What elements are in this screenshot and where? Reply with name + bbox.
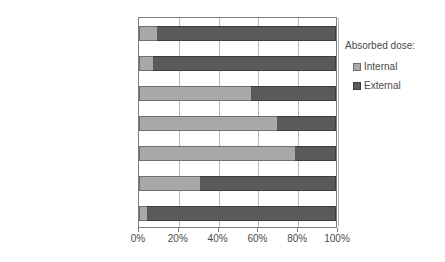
plot-area [138, 17, 337, 228]
bar-segment-external [157, 26, 336, 41]
legend-items: InternalExternal [345, 61, 443, 92]
bar-row [139, 86, 336, 101]
bar-segment-external [251, 86, 336, 101]
legend-label: Internal [364, 61, 397, 73]
bar-segment-external [147, 206, 336, 221]
tick-mark-100 [337, 228, 338, 232]
tick-label-0: 0% [131, 233, 145, 245]
tick-label-20: 20% [168, 233, 188, 245]
tick-label-100: 100% [324, 233, 350, 245]
tick-mark-0 [138, 228, 139, 232]
tick-mark-80 [297, 228, 298, 232]
bar-segment-external [153, 56, 336, 71]
bar-row [139, 116, 336, 131]
stacked-bar-chart: Pripyat RiverUzh RiverCooling pondYanovs… [0, 0, 445, 262]
bar-segment-internal [139, 56, 153, 71]
bar-segment-external [277, 116, 336, 131]
legend-swatch-internal-icon [353, 63, 361, 71]
bar-row [139, 56, 336, 71]
tick-mark-20 [178, 228, 179, 232]
legend: Absorbed dose: InternalExternal [345, 40, 443, 99]
bar-segment-internal [139, 206, 147, 221]
legend-item-external: External [345, 80, 443, 92]
bar-row [139, 176, 336, 191]
tick-mark-60 [257, 228, 258, 232]
tick-label-80: 80% [287, 233, 307, 245]
tick-label-40: 40% [208, 233, 228, 245]
bar-row [139, 146, 336, 161]
bar-segment-external [295, 146, 336, 161]
legend-title: Absorbed dose: [345, 40, 443, 52]
legend-item-internal: Internal [345, 61, 443, 73]
bar-row [139, 206, 336, 221]
bar-segment-internal [139, 86, 251, 101]
bar-row [139, 26, 336, 41]
value-axis: 0%20%40%60%80%100% [138, 228, 337, 250]
tick-label-60: 60% [247, 233, 267, 245]
legend-swatch-external-icon [353, 82, 361, 90]
bar-segment-internal [139, 176, 200, 191]
tick-mark-40 [218, 228, 219, 232]
legend-label: External [364, 80, 401, 92]
bar-segment-internal [139, 26, 157, 41]
bar-segment-internal [139, 146, 295, 161]
bar-segment-external [200, 176, 336, 191]
gridline-100 [338, 18, 339, 227]
bar-segment-internal [139, 116, 277, 131]
